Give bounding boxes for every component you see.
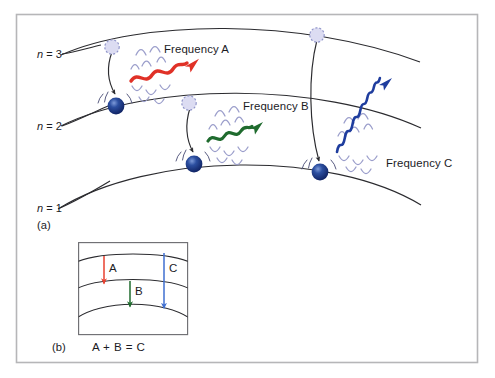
shell-label-n1-equals: = (43, 202, 56, 214)
panel-b-label: (b) (52, 341, 66, 353)
figure-container: n = 3 n = 2 n = 1 Frequency A Frequency … (0, 0, 495, 378)
wave-ripples-b (209, 107, 248, 165)
shell-label-n2-equals: = (43, 120, 56, 132)
energy-level-diagram: n = 3 n = 2 n = 1 Frequency A Frequency … (0, 0, 495, 378)
excited-state-circle-c (310, 28, 324, 42)
inset-label-b: B (135, 285, 143, 297)
figure-border (17, 15, 478, 363)
photon-wave-c (337, 78, 392, 152)
panel-a-label: (a) (37, 219, 51, 231)
leader-line-n3 (62, 45, 101, 54)
jump-arrow-c (311, 40, 319, 161)
shell-label-n1: n = 1 (37, 202, 62, 214)
electron-n1-b (186, 156, 203, 173)
shell-label-n2-value: 2 (56, 120, 62, 132)
shell-label-n3-value: 3 (56, 48, 62, 60)
inset-equation: A + B = C (92, 340, 145, 353)
panel-b: A B C (b) A + B = C (52, 243, 192, 353)
frequency-a-label: Frequency A (164, 43, 229, 55)
orbit-shells (58, 28, 421, 209)
shell-label-n3: n = 3 (37, 48, 62, 60)
shell-label-n3-equals: = (43, 48, 56, 60)
shell-label-n2: n = 2 (37, 120, 62, 132)
electron-n2 (108, 98, 125, 115)
jump-arrow-a (108, 52, 115, 94)
panel-a: n = 3 n = 2 n = 1 Frequency A Frequency … (37, 28, 452, 231)
orbit-arc-n1 (58, 165, 421, 209)
excited-state-circle-b (182, 96, 196, 110)
excited-state-markers (105, 28, 324, 110)
frequency-c-label: Frequency C (386, 157, 452, 169)
inset-arc-level-2 (74, 280, 192, 291)
frequency-b-label: Frequency B (243, 100, 309, 112)
excited-state-circle-a (105, 40, 119, 54)
electron-n1-c (312, 164, 329, 181)
inset-label-c: C (169, 262, 177, 274)
shell-label-n1-value: 1 (56, 202, 62, 214)
photon-wave-b (208, 122, 263, 141)
inset-label-a: A (109, 262, 117, 274)
shell-leader-lines (60, 45, 110, 208)
leader-line-n2 (62, 106, 108, 126)
inset-arc-level-1 (74, 304, 192, 320)
transition-a (108, 52, 199, 94)
jump-arrow-b (187, 108, 193, 152)
